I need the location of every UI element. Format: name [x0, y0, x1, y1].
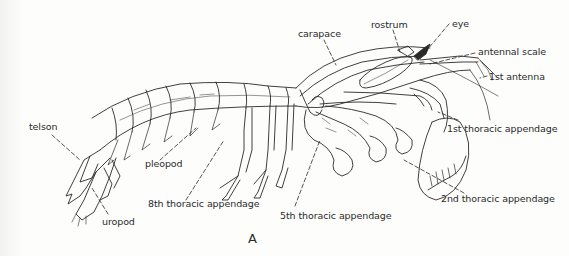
leader-2nd-thoracic	[404, 160, 464, 193]
leader-carapace	[324, 40, 336, 65]
label-antennal-scale: antennal scale	[478, 47, 546, 57]
leader-rostrum	[393, 30, 400, 52]
leader-eye	[427, 24, 449, 50]
label-uropod: uropod	[102, 217, 135, 227]
leader-uropod	[92, 188, 108, 214]
label-8th-thoracic: 8th thoracic appendage	[148, 199, 259, 209]
label-carapace: carapace	[298, 29, 341, 39]
carapace	[296, 47, 470, 116]
label-pleopod: pleopod	[145, 159, 183, 169]
figure-letter: A	[248, 232, 257, 245]
maxillipeds	[304, 96, 412, 176]
label-2nd-thoracic: 2nd thoracic appendage	[441, 194, 555, 204]
leader-5th-thoracic	[295, 140, 320, 206]
label-5th-thoracic: 5th thoracic appendage	[280, 211, 391, 221]
label-1st-antenna: 1st antenna	[489, 72, 545, 82]
leader-1st-antenna	[480, 76, 487, 78]
abdomen	[92, 82, 296, 165]
walking-legs	[220, 104, 294, 200]
label-eye: eye	[452, 19, 469, 29]
label-telson: telson	[29, 122, 57, 132]
label-1st-thoracic: 1st thoracic appendage	[447, 124, 557, 134]
leader-pleopod	[160, 128, 196, 160]
figure-a: carapace rostrum eye antennal scale 1st …	[0, 0, 569, 256]
leader-8th-thoracic	[186, 140, 224, 200]
leader-telson	[52, 135, 80, 160]
label-rostrum: rostrum	[371, 20, 408, 30]
